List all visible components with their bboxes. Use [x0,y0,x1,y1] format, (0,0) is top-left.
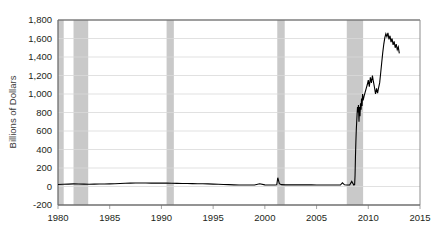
x-tick-label: 2010 [358,212,379,223]
x-tick-label: 1980 [47,212,68,223]
x-tick-label: 2000 [254,212,275,223]
y-axis-tick-labels: -20002004006008001,0001,2001,4001,6001,8… [28,14,52,210]
billions-of-dollars-line-chart: -20002004006008001,0001,2001,4001,6001,8… [0,0,445,239]
y-tick-label: 1,200 [28,70,52,81]
y-tick-label: 1,400 [28,51,52,62]
y-tick-label: -200 [33,199,52,210]
y-tick-label: 1,000 [28,88,52,99]
y-tick-label: 200 [36,162,52,173]
x-tick-label: 1990 [151,212,172,223]
x-tick-label: 1995 [203,212,224,223]
y-tick-label: 800 [36,107,52,118]
x-axis-tick-labels: 19801985199019952000200520102015 [47,212,430,223]
y-tick-label: 1,600 [28,33,52,44]
x-tick-label: 2015 [409,212,430,223]
y-tick-label: 0 [47,181,52,192]
x-tick-label: 1985 [99,212,120,223]
x-tick-label: 2005 [306,212,327,223]
y-tick-label: 1,800 [28,14,52,25]
chart-container: -20002004006008001,0001,2001,4001,6001,8… [0,0,445,239]
y-tick-label: 400 [36,144,52,155]
y-tick-label: 600 [36,125,52,136]
y-axis-title: Billions of Dollars [7,75,18,148]
